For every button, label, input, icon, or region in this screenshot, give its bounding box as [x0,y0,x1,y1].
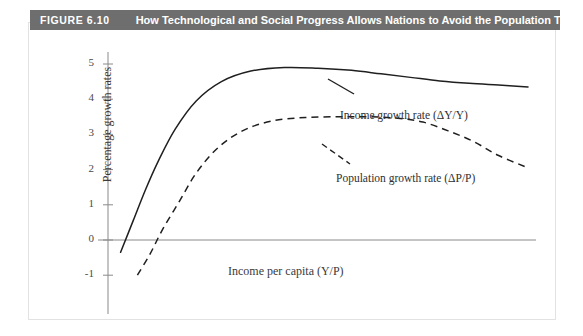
income-growth-curve [121,67,528,252]
figure-root: FIGURE 6.10 How Technological and Social… [0,0,583,336]
y-tick-label-0: 0 [72,232,94,244]
population-growth-leader-line [322,144,350,164]
y-tick-label-1: 1 [72,197,94,209]
x-axis-title: Income per capita (Y/P) [228,264,344,279]
income-growth-rate-label: Income growth rate (ΔY/Y) [340,109,468,121]
y-tick-label-4: 4 [72,91,94,103]
chart-plot-area: 543210-1 Percentage growth rates Income … [28,22,556,320]
population-growth-curve [137,117,528,276]
income-growth-leader-line [328,79,354,94]
y-tick-label-2: 2 [72,162,94,174]
y-tick-label-3: 3 [72,126,94,138]
population-growth-rate-label: Population growth rate (ΔP/P) [336,172,475,184]
y-tick-label--1: -1 [72,267,94,279]
y-tick-label-5: 5 [72,56,94,68]
y-axis-title: Percentage growth rates [100,40,115,210]
